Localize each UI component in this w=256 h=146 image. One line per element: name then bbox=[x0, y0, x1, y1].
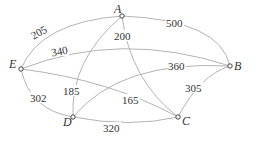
node-label-A: A bbox=[113, 2, 122, 16]
weight-label-D-B: 360 bbox=[168, 60, 186, 72]
graph-diagram: 205 500 185 200 340 302 165 360 320 305 bbox=[0, 0, 256, 146]
svg-text:320: 320 bbox=[103, 122, 120, 134]
svg-text:302: 302 bbox=[30, 92, 47, 104]
svg-text:360: 360 bbox=[168, 60, 185, 72]
weight-label-A-B: 500 bbox=[166, 17, 184, 29]
weight-label-A-C: 200 bbox=[114, 30, 132, 42]
svg-text:340: 340 bbox=[50, 44, 69, 59]
svg-text:500: 500 bbox=[166, 17, 183, 29]
weight-label-A-E: 205 bbox=[29, 23, 50, 42]
weight-label-E-D: 302 bbox=[30, 92, 48, 104]
node-C bbox=[176, 115, 180, 119]
weight-label-E-C: 165 bbox=[122, 94, 140, 106]
svg-text:200: 200 bbox=[114, 30, 131, 42]
svg-text:165: 165 bbox=[122, 94, 139, 106]
weight-label-D-C: 320 bbox=[103, 122, 121, 134]
weight-label-C-B: 305 bbox=[185, 82, 203, 94]
edge-A-E bbox=[21, 16, 122, 69]
edge-D-C bbox=[73, 117, 178, 123]
svg-text:185: 185 bbox=[63, 85, 80, 97]
node-label-C: C bbox=[182, 114, 191, 128]
node-label-E: E bbox=[8, 57, 17, 71]
node-E bbox=[19, 67, 23, 71]
weight-label-A-D: 185 bbox=[63, 85, 81, 97]
node-label-B: B bbox=[234, 59, 242, 73]
node-label-D: D bbox=[62, 115, 72, 129]
weight-label-E-B: 340 bbox=[50, 44, 69, 59]
node-B bbox=[228, 64, 232, 68]
svg-text:205: 205 bbox=[29, 23, 50, 42]
svg-text:305: 305 bbox=[185, 82, 202, 94]
